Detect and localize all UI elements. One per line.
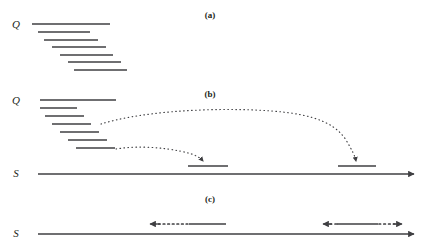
panel-b-group (38, 100, 414, 174)
panel-label-b: (b) (190, 89, 230, 99)
subject-label-b: S (9, 167, 23, 179)
panel-b-staircase (40, 100, 116, 148)
panel-label-c: (c) (190, 194, 230, 204)
panel-c-group (38, 224, 414, 234)
subject-label-c: S (9, 227, 23, 239)
mapping-arrow-upper (101, 110, 356, 161)
panel-a-group (32, 24, 127, 70)
figure-root: (a) (b) (c) Q Q S S (0, 0, 426, 249)
query-label-b: Q (9, 94, 23, 106)
panel-a-staircase (32, 24, 127, 70)
mapping-arrow-lower (116, 147, 203, 161)
query-label-a: Q (9, 18, 23, 30)
figure-canvas (0, 0, 426, 249)
panel-label-a: (a) (190, 10, 230, 20)
